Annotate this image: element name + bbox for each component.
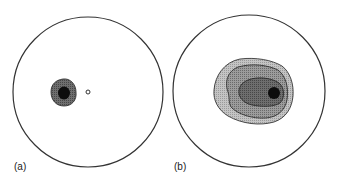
panel-b [173, 15, 325, 167]
figure-canvas [0, 0, 338, 184]
panel-a [13, 17, 163, 167]
contour-max-b [268, 87, 280, 99]
center-marker-a [86, 90, 90, 94]
contour-max-a [58, 87, 70, 100]
panel-label-a: (a) [14, 161, 26, 172]
panel-label-b: (b) [174, 161, 186, 172]
